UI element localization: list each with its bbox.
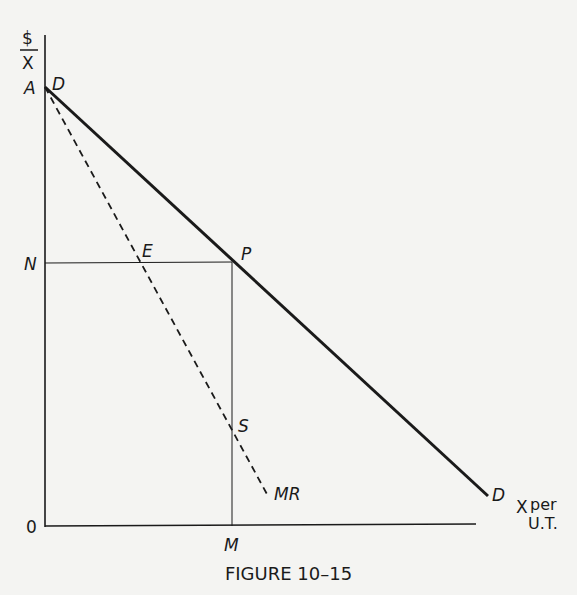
price-line-NP [45,262,232,263]
point-label-M: M [224,537,239,554]
mr-curve-label: MR [274,486,300,503]
point-label-A: A [24,80,36,97]
point-label-N: N [24,256,37,273]
point-label-P: P [241,246,251,263]
diagram-canvas [0,0,577,595]
demand-label-bottom: D [492,487,505,504]
marginal-revenue-curve [45,87,268,496]
x-axis-label-x: X [516,499,528,516]
demand-label-top: D [52,76,65,93]
y-axis-label-x: X [22,55,34,72]
x-axis-label-per: per [530,497,557,513]
origin-label: 0 [26,519,37,536]
x-axis [45,524,476,526]
x-axis-label-ut: U.T. [528,516,558,532]
demand-curve [45,87,488,496]
point-label-E: E [142,243,153,260]
y-axis-label-dollar: $ [22,30,33,47]
figure-caption: FIGURE 10–15 [0,563,577,584]
point-label-S: S [238,418,249,435]
